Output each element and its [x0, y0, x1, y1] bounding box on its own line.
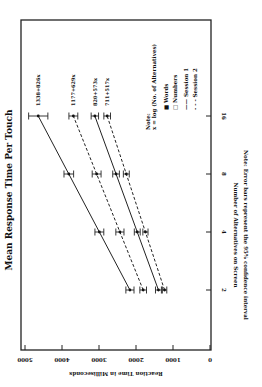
error-bar — [69, 113, 78, 120]
rt-tick-label: 3000 — [91, 357, 106, 363]
n-tick-label: 16 — [221, 112, 227, 120]
data-point-marker — [144, 231, 147, 234]
series-line — [95, 116, 159, 290]
error-bar — [123, 171, 129, 178]
error-bar — [104, 113, 111, 120]
legend-entry-session-2: - - - Session 2 — [192, 68, 198, 110]
error-bar — [92, 171, 101, 178]
legend-entry-session-1: —— Session 1 — [183, 68, 189, 110]
data-point-marker — [119, 231, 122, 234]
y-axis-title: Reaction Time in Milliseconds — [69, 371, 163, 377]
data-point-marker — [93, 115, 96, 118]
error-bar — [140, 287, 147, 294]
error-bar — [155, 287, 161, 294]
data-point-marker — [115, 173, 118, 176]
error-bar — [116, 229, 124, 236]
error-bar — [91, 113, 98, 120]
rt-tick-label: 5000 — [17, 357, 32, 363]
data-point-marker — [67, 173, 70, 176]
data-point-marker — [163, 289, 166, 292]
data-point-marker — [136, 231, 139, 234]
data-series — [29, 113, 167, 294]
error-bar — [143, 229, 148, 236]
data-point-marker — [157, 289, 160, 292]
rt-tick-label: 0 — [208, 357, 212, 363]
chart-labels: 010002000300040005000Reaction Time in Mi… — [4, 44, 249, 377]
error-bar — [113, 171, 120, 178]
n-tick-label: 4 — [221, 230, 227, 234]
data-point-marker — [125, 173, 128, 176]
error-bar — [95, 229, 104, 236]
rotated-line-chart: 010002000300040005000Reaction Time in Mi… — [0, 0, 262, 387]
error-bar — [29, 113, 48, 120]
error-bar — [162, 287, 166, 294]
x-axis-title: Number of Alternatives on Screen — [233, 183, 239, 288]
legend-entry-words: ■ Words — [163, 84, 169, 110]
rt-tick-label: 4000 — [54, 357, 69, 363]
legend-note-formula: x = log (No. of Alternatives) — [151, 44, 158, 130]
data-point-marker — [98, 231, 101, 234]
error-bar — [126, 287, 134, 294]
fit-equation-label: 1177+629x — [70, 73, 76, 106]
fit-equation-label: 1338+826x — [35, 73, 41, 106]
data-point-marker — [142, 289, 145, 292]
rt-tick-label: 1000 — [165, 357, 180, 363]
rt-tick-label: 2000 — [128, 357, 143, 363]
data-point-marker — [129, 289, 132, 292]
error-bar — [64, 171, 74, 178]
data-point-marker — [37, 115, 40, 118]
fit-equation-label: 820+573x — [92, 77, 98, 106]
data-point-marker — [72, 115, 75, 118]
chart-title: Mean Response Time Per Touch — [4, 109, 14, 271]
n-tick-label: 8 — [221, 172, 227, 176]
error-bar — [134, 229, 140, 236]
footnote: Note: Error bars represent the 95% confi… — [242, 150, 249, 320]
data-point-marker — [95, 173, 98, 176]
data-point-marker — [106, 115, 109, 118]
n-tick-label: 2 — [221, 288, 227, 292]
fit-equation-label: 711+517x — [104, 77, 110, 106]
legend-entry-numbers: □ Numbers — [172, 75, 178, 110]
